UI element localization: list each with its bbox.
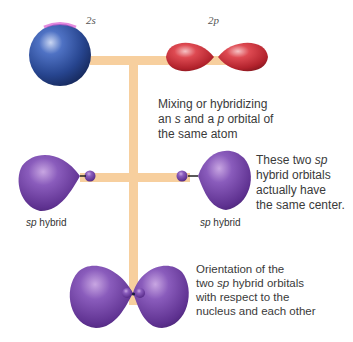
caption-mixing: Mixing or hybridizing an s and a p orbit…	[158, 97, 273, 142]
caption-same-center: These two sp hybrid orbitals actually ha…	[256, 153, 345, 213]
caption-orient-line1: Orientation of the	[196, 262, 316, 276]
caption-orient-line4: nucleus and each other	[196, 304, 316, 318]
caption-orientation: Orientation of the two sp hybrid orbital…	[196, 262, 316, 318]
caption-center-line2: hybrid orbitals	[256, 168, 345, 183]
text: These two	[256, 153, 315, 167]
text: hybrid	[37, 217, 67, 228]
label-sp-hybrid-left: sp hybrid	[26, 217, 67, 228]
text: orbital of	[224, 112, 273, 126]
caption-center-line4: the same center.	[256, 198, 345, 213]
caption-center-line3: actually have	[256, 183, 345, 198]
s-orbital-sphere	[29, 24, 91, 87]
caption-mixing-line2: an s and a p orbital of	[158, 112, 273, 127]
text-italic: sp	[217, 277, 229, 289]
text: an	[158, 112, 175, 126]
caption-mixing-line3: the same atom	[158, 127, 273, 142]
label-2s: 2s	[86, 14, 96, 26]
caption-orient-line2: two sp hybrid orbitals	[196, 276, 316, 290]
text: and a	[181, 112, 218, 126]
text: two	[196, 277, 217, 289]
label-sp-hybrid-right: sp hybrid	[200, 217, 241, 228]
text-italic: sp	[200, 217, 211, 228]
text: hybrid	[211, 217, 241, 228]
text-italic: sp	[315, 153, 328, 167]
sp-hybrid-left	[19, 155, 96, 211]
caption-orient-line3: with respect to the	[196, 290, 316, 304]
label-2p: 2p	[208, 14, 219, 26]
text: hybrid orbitals	[229, 277, 304, 289]
caption-center-line1: These two sp	[256, 153, 345, 168]
text-italic: sp	[26, 217, 37, 228]
caption-mixing-line1: Mixing or hybridizing	[158, 97, 273, 112]
